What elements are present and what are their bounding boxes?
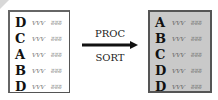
record-data-squiggle: ѵѵѵ (32, 35, 45, 43)
output-row: A ѵѵѵ ʬʬʬ (155, 15, 210, 31)
record-data-squiggle: ʬʬʬ (191, 83, 202, 91)
record-data-squiggle: ѵѵѵ (32, 51, 45, 59)
record-key: B (155, 31, 169, 47)
process-label-proc: PROC (80, 28, 140, 39)
record-key: D (155, 79, 169, 95)
record-data-squiggle: ѵѵѵ (172, 67, 185, 75)
output-row: C ѵѵѵ ʬʬʬ (155, 47, 210, 63)
arrow-right-icon (82, 41, 138, 49)
record-key: C (15, 31, 29, 47)
output-row: D ѵѵѵ ʬʬʬ (155, 79, 210, 95)
record-data-squiggle: ʬʬʬ (191, 51, 202, 59)
input-record-list: D ѵѵѵ ʬʬʬ C ѵѵѵ ʬʬʬ A ѵѵѵ ʬʬʬ B ѵѵѵ ʬʬʬ … (8, 10, 70, 93)
record-key: A (155, 15, 169, 31)
record-key: B (15, 63, 29, 79)
record-data-squiggle: ʬʬʬ (191, 19, 202, 27)
record-data-squiggle: ѵѵѵ (32, 83, 45, 91)
input-row: C ѵѵѵ ʬʬʬ (15, 31, 69, 47)
record-data-squiggle: ѵѵѵ (32, 67, 45, 75)
record-data-squiggle: ѵѵѵ (172, 51, 185, 59)
record-key: D (155, 63, 169, 79)
record-data-squiggle: ʬʬʬ (51, 67, 62, 75)
record-data-squiggle: ѵѵѵ (172, 35, 185, 43)
input-row: B ѵѵѵ ʬʬʬ (15, 63, 69, 79)
record-key: C (155, 47, 169, 63)
record-key: D (15, 79, 29, 95)
output-record-list: A ѵѵѵ ʬʬʬ B ѵѵѵ ʬʬʬ C ѵѵѵ ʬʬʬ D ѵѵѵ ʬʬʬ … (148, 10, 212, 93)
record-data-squiggle: ѵѵѵ (32, 19, 45, 27)
process-label-sort: SORT (80, 52, 140, 63)
page-fold-corner (0, 0, 9, 9)
record-data-squiggle: ʬʬʬ (191, 67, 202, 75)
record-data-squiggle: ʬʬʬ (191, 35, 202, 43)
record-data-squiggle: ʬʬʬ (51, 35, 62, 43)
record-data-squiggle: ѵѵѵ (172, 19, 185, 27)
input-row: D ѵѵѵ ʬʬʬ (15, 79, 69, 95)
record-data-squiggle: ʬʬʬ (51, 51, 62, 59)
output-row: D ѵѵѵ ʬʬʬ (155, 63, 210, 79)
input-row: D ѵѵѵ ʬʬʬ (15, 15, 69, 31)
input-row: A ѵѵѵ ʬʬʬ (15, 47, 69, 63)
record-data-squiggle: ʬʬʬ (51, 19, 62, 27)
record-key: A (15, 47, 29, 63)
record-data-squiggle: ѵѵѵ (172, 83, 185, 91)
output-row: B ѵѵѵ ʬʬʬ (155, 31, 210, 47)
record-data-squiggle: ʬʬʬ (51, 83, 62, 91)
record-key: D (15, 15, 29, 31)
